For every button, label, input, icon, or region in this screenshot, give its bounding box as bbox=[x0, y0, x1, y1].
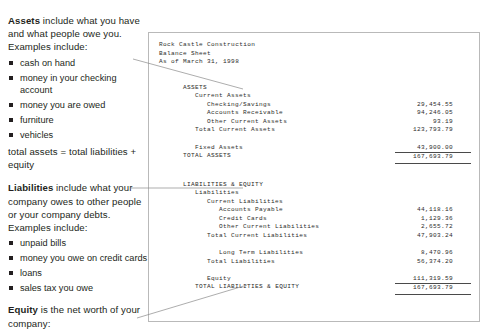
list-item: money you owe on credit cards bbox=[8, 252, 148, 264]
list-item: furniture bbox=[8, 114, 148, 126]
current-liabilities-heading: Current Liabilities bbox=[159, 198, 471, 207]
square-bullet-icon bbox=[9, 118, 13, 122]
square-bullet-icon bbox=[9, 286, 13, 290]
row-label: Total Current Assets bbox=[159, 126, 275, 135]
spacer bbox=[159, 241, 471, 250]
table-row: Total Current Liabilities 47,903.24 bbox=[159, 232, 471, 241]
row-label: Accounts Receivable bbox=[159, 109, 283, 118]
list-item: loans bbox=[8, 267, 148, 279]
list-item: money in your checking account bbox=[8, 72, 148, 97]
row-label: Checking/Savings bbox=[159, 101, 271, 110]
row-label: Fixed Assets bbox=[159, 144, 243, 153]
row-label: Equity bbox=[159, 275, 231, 284]
list-item-label: cash on hand bbox=[20, 58, 75, 68]
row-amount: 43,900.00 bbox=[395, 144, 471, 153]
list-item-label: money you owe on credit cards bbox=[20, 253, 147, 263]
table-row: Accounts Payable 44,118.16 bbox=[159, 206, 471, 215]
row-amount: 167,693.79 bbox=[395, 152, 471, 164]
row-label: TOTAL LIABILITIES & EQUITY bbox=[159, 283, 299, 295]
spacer bbox=[8, 173, 148, 181]
row-amount: 44,118.16 bbox=[395, 206, 471, 215]
list-item-label: money you are owed bbox=[20, 100, 105, 110]
row-label: Total Liabilities bbox=[159, 258, 275, 267]
current-assets-heading: Current Assets bbox=[159, 92, 471, 101]
list-item-label: vehicles bbox=[20, 130, 53, 140]
list-item: cash on hand bbox=[8, 57, 148, 69]
liabilities-paragraph: Liabilities include what your company ow… bbox=[8, 181, 148, 234]
row-label: Total Current Liabilities bbox=[159, 232, 307, 241]
table-row-total: TOTAL LIABILITIES & EQUITY 167,693.79 bbox=[159, 283, 471, 295]
row-amount: 8,470.96 bbox=[395, 249, 471, 258]
table-row-total: TOTAL ASSETS 167,693.79 bbox=[159, 152, 471, 164]
assets-paragraph: Assets include what you have and what pe… bbox=[8, 14, 148, 54]
list-item: sales tax you owe bbox=[8, 282, 148, 294]
row-label: Long Term Liabilities bbox=[159, 249, 303, 258]
list-item-label: loans bbox=[20, 268, 42, 278]
table-row: Other Current Assets 93.19 bbox=[159, 118, 471, 127]
list-item-label: unpaid bills bbox=[20, 238, 66, 248]
list-item: vehicles bbox=[8, 129, 148, 141]
square-bullet-icon bbox=[9, 271, 13, 275]
row-amount: 123,793.79 bbox=[395, 126, 471, 135]
liabilities-lead-label: Liabilities bbox=[8, 182, 53, 193]
spacer bbox=[159, 172, 471, 181]
table-row: Fixed Assets 43,900.00 bbox=[159, 144, 471, 153]
square-bullet-icon bbox=[9, 103, 13, 107]
square-bullet-icon bbox=[9, 241, 13, 245]
list-item-label: money in your checking account bbox=[20, 73, 117, 95]
list-item: money you are owed bbox=[8, 99, 148, 111]
liabilities-equity-heading: LIABILITIES & EQUITY bbox=[159, 181, 471, 190]
table-row: Accounts Receivable 94,246.05 bbox=[159, 109, 471, 118]
square-bullet-icon bbox=[9, 61, 13, 65]
balance-sheet-report: Rock Castle Construction Balance Sheet A… bbox=[148, 32, 480, 322]
row-label: TOTAL ASSETS bbox=[159, 152, 231, 164]
table-row: Credit Cards 1,129.36 bbox=[159, 215, 471, 224]
equity-lead-label: Equity bbox=[8, 304, 38, 315]
table-row: Total Liabilities 56,374.20 bbox=[159, 258, 471, 267]
equity-paragraph: Equity is the net worth of your company: bbox=[8, 303, 148, 329]
row-label: Other Current Assets bbox=[159, 118, 287, 127]
table-row: Long Term Liabilities 8,470.96 bbox=[159, 249, 471, 258]
row-label: Credit Cards bbox=[159, 215, 267, 224]
spacer bbox=[159, 266, 471, 275]
row-amount: 2,655.72 bbox=[395, 223, 471, 232]
spacer bbox=[159, 75, 471, 84]
row-amount: 1,129.36 bbox=[395, 215, 471, 224]
table-row: Equity 111,319.59 bbox=[159, 275, 471, 284]
report-company-name: Rock Castle Construction bbox=[159, 41, 471, 50]
assets-equation-note: total assets = total liabilities + equit… bbox=[8, 145, 148, 171]
report-body: Rock Castle Construction Balance Sheet A… bbox=[159, 41, 471, 295]
row-amount: 29,454.55 bbox=[395, 101, 471, 110]
explanation-column: Assets include what you have and what pe… bbox=[8, 14, 148, 329]
square-bullet-icon bbox=[9, 256, 13, 260]
list-item-label: furniture bbox=[20, 115, 54, 125]
assets-section-heading: ASSETS bbox=[159, 84, 471, 93]
row-amount: 167,693.79 bbox=[395, 283, 471, 295]
row-amount: 93.19 bbox=[395, 118, 471, 127]
table-row: Other Current Liabilities 2,655.72 bbox=[159, 223, 471, 232]
table-row: Total Current Assets 123,793.79 bbox=[159, 126, 471, 135]
spacer bbox=[159, 164, 471, 173]
spacer bbox=[159, 135, 471, 144]
report-as-of-date: As of March 31, 1998 bbox=[159, 58, 471, 67]
report-title: Balance Sheet bbox=[159, 50, 471, 59]
row-amount: 111,319.59 bbox=[395, 275, 471, 284]
spacer bbox=[159, 67, 471, 76]
liabilities-subheading: Liabilities bbox=[159, 189, 471, 198]
row-amount: 56,374.20 bbox=[395, 258, 471, 267]
row-amount: 47,903.24 bbox=[395, 232, 471, 241]
liabilities-bullet-list: unpaid bills money you owe on credit car… bbox=[8, 237, 148, 294]
row-label: Other Current Liabilities bbox=[159, 223, 319, 232]
assets-bullet-list: cash on hand money in your checking acco… bbox=[8, 57, 148, 141]
list-item-label: sales tax you owe bbox=[20, 283, 93, 293]
row-amount: 94,246.05 bbox=[395, 109, 471, 118]
square-bullet-icon bbox=[9, 133, 13, 137]
assets-lead-label: Assets bbox=[8, 15, 40, 26]
list-item: unpaid bills bbox=[8, 237, 148, 249]
square-bullet-icon bbox=[9, 76, 13, 80]
table-row: Checking/Savings 29,454.55 bbox=[159, 101, 471, 110]
row-label: Accounts Payable bbox=[159, 206, 283, 215]
